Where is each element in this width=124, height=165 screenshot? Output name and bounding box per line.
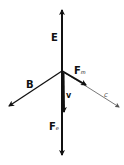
- velocity-vector: [64, 73, 65, 112]
- label-e: E: [51, 33, 58, 43]
- label-b: B: [26, 80, 34, 90]
- vector-diagram: [0, 0, 124, 165]
- label-fe: Fe: [49, 122, 59, 133]
- label-fm: Fm: [74, 66, 86, 77]
- label-v: v: [66, 91, 71, 101]
- label-c: c: [104, 90, 108, 100]
- b-field-vector: [9, 71, 62, 106]
